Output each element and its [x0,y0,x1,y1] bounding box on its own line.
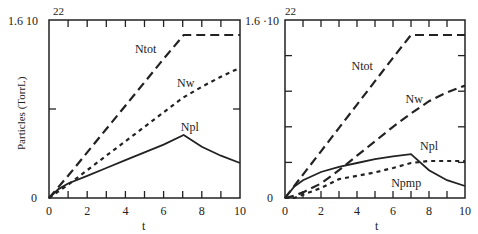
series-nw [285,86,465,198]
x-tick-label: 4 [354,204,360,218]
series-npl [49,135,240,198]
left-plot: 1.6 10 22 0 Particles (TorrL) t 0246810 … [8,5,246,233]
curves: NtotNwNplNpmp [285,35,465,198]
x-tick-label: 2 [84,204,90,218]
x-tick-label: 6 [161,204,167,218]
y-axis-label: Particles (TorrL) [15,76,28,150]
x-tick-label: 10 [234,204,246,218]
series-ntot [49,35,240,198]
x-tick-label: 10 [459,204,471,218]
series-label: Nw [177,76,195,90]
y-top-label: 1.6 10 [8,14,38,28]
series-label: Ntot [352,59,374,73]
right-plot: 1.6 ·10 22 0 t 0246810 NtotNwNplNpmp [245,5,471,233]
x-tick-label: 0 [282,204,288,218]
figure: 1.6 10 22 0 Particles (TorrL) t 0246810 … [0,0,478,234]
series-nw [49,68,240,198]
x-tick-label: 8 [426,204,432,218]
curves: NtotNwNpl [49,35,240,198]
series-ntot [285,35,465,198]
x-tick-label: 0 [46,204,52,218]
series-label: Nw [406,92,424,106]
x-tick-label: 2 [318,204,324,218]
x-tick-labels: 0246810 [282,204,471,218]
series-label: Npl [181,120,200,134]
y-bottom-label: 0 [267,191,273,205]
x-tick-label: 8 [199,204,205,218]
y-bottom-label: 0 [31,191,37,205]
y-top-label: 1.6 ·10 [245,14,279,28]
y-exponent: 22 [53,5,64,17]
y-exponent: 22 [285,5,296,17]
series-label: Npl [420,139,439,153]
series-label: Npmp [391,176,421,190]
x-tick-label: 6 [390,204,396,218]
x-axis-label: t [142,219,146,233]
plot-frame [285,20,465,198]
series-label: Ntot [135,42,157,56]
x-tick-label: 4 [122,204,128,218]
x-axis-label: t [375,219,379,233]
x-tick-labels: 0246810 [46,204,246,218]
